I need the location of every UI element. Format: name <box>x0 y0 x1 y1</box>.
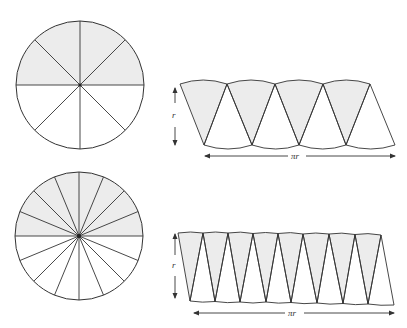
strip-8-sectors <box>180 80 395 149</box>
center-dot <box>78 83 81 86</box>
label-pir-bottom: πr <box>288 308 297 318</box>
circle-area-diagram: r πr <box>0 0 407 328</box>
center-dot <box>77 234 81 238</box>
label-r-bottom: r <box>172 260 176 270</box>
circle-8-sectors <box>16 21 144 149</box>
label-pir-top: πr <box>291 151 300 161</box>
label-r-top: r <box>172 110 176 120</box>
strip-16-sectors <box>178 232 394 305</box>
circle-16-sectors <box>15 172 143 300</box>
